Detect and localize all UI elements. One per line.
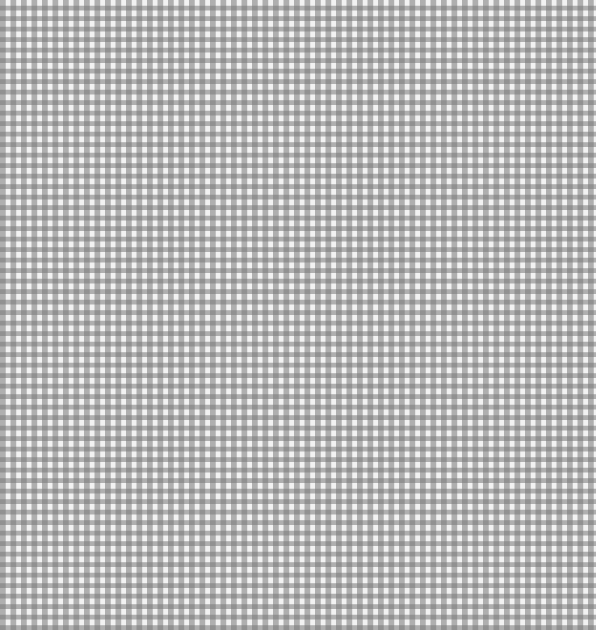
gingham-pattern: [0, 0, 596, 630]
